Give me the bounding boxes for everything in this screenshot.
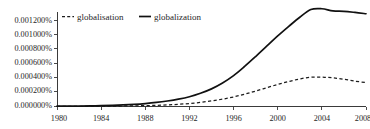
x-tick-label: 2000: [270, 114, 286, 123]
x-tick-label: 1980: [51, 114, 67, 123]
legend-label-globalization: globalization: [154, 12, 201, 22]
series-line-globalisation: [57, 77, 366, 106]
series-line-globalization: [57, 8, 366, 106]
x-axis-tick-labels: 1980 1984 1988 1992 1996 2000 2004 2008: [51, 114, 370, 123]
ngram-chart: 0.001200% 0.001000% 0.000800% 0.000600% …: [0, 0, 370, 129]
x-tick-label: 1988: [137, 114, 153, 123]
y-tick-label: 0.000400%: [14, 72, 52, 81]
y-tick-label: 0.001000%: [14, 30, 52, 39]
x-tick-label: 2004: [314, 114, 330, 123]
y-axis-ticks: [54, 20, 58, 106]
y-tick-label: 0.000200%: [14, 86, 52, 95]
y-tick-label: 0.001200%: [14, 16, 52, 25]
chart-legend: globalisation globalization: [62, 12, 201, 22]
y-tick-label: 0.000000%: [14, 101, 52, 110]
y-tick-label: 0.000600%: [14, 58, 52, 67]
x-tick-label: 1996: [225, 114, 241, 123]
x-tick-label: 2008: [355, 114, 370, 123]
legend-label-globalisation: globalisation: [77, 12, 124, 22]
x-tick-label: 1984: [93, 114, 109, 123]
y-axis-tick-labels: 0.001200% 0.001000% 0.000800% 0.000600% …: [14, 16, 52, 110]
x-axis-ticks: [57, 107, 366, 111]
y-tick-label: 0.000800%: [14, 44, 52, 53]
chart-canvas: 0.001200% 0.001000% 0.000800% 0.000600% …: [0, 0, 370, 129]
x-tick-label: 1992: [181, 114, 197, 123]
